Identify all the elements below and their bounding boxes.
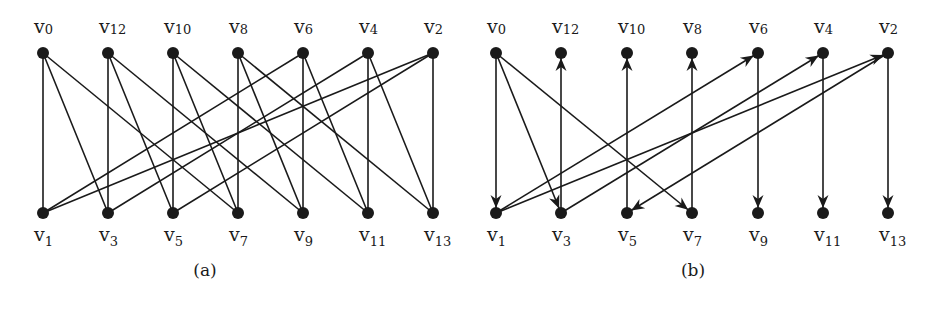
subfigure-caption: (b) [681,260,705,280]
subfigure-caption: (a) [193,260,216,280]
node-dot-icon [882,207,894,219]
node-label: v1 [33,223,53,249]
node-v1: v1 [486,207,506,249]
edge-v6-v11 [303,53,368,213]
node-v11: v11 [358,207,386,249]
arrowhead-icon [805,56,819,68]
node-v4: v4 [358,15,378,59]
node-label: v2 [878,15,898,37]
node-label: v8 [228,15,248,37]
edges [43,53,433,213]
node-label: v0 [486,15,506,37]
node-v4: v4 [813,15,833,59]
node-label: v12 [98,15,126,37]
node-v13: v13 [423,207,451,249]
edge-v12-v5 [108,53,173,213]
node-dot-icon [102,207,114,219]
subfigure-a: v0v12v10v8v6v4v2v1v3v5v7v9v11v13(a) [33,15,451,280]
node-label: v7 [228,223,248,249]
node-label: v0 [33,15,53,37]
node-label: v3 [98,223,118,249]
node-label: v8 [682,15,702,37]
node-dot-icon [490,207,502,219]
node-label: v10 [617,15,645,37]
node-v5: v5 [163,207,183,249]
node-v11: v11 [813,207,841,249]
node-dot-icon [362,47,374,59]
arrowhead-icon [675,197,689,209]
node-dot-icon [232,207,244,219]
node-label: v6 [293,15,313,37]
edge-v10-v7 [173,53,238,213]
node-dot-icon [232,47,244,59]
graph-figure: v0v12v10v8v6v4v2v1v3v5v7v9v11v13(a)v0v12… [0,0,939,311]
node-dot-icon [297,47,309,59]
node-dot-icon [427,207,439,219]
edges [491,53,894,213]
node-dot-icon [167,207,179,219]
node-dot-icon [686,207,698,219]
node-dot-icon [817,207,829,219]
node-label: v13 [423,223,451,249]
node-label: v2 [423,15,443,37]
node-dot-icon [621,47,633,59]
node-v0: v0 [33,15,53,59]
node-v9: v9 [293,207,313,249]
node-dot-icon [882,47,894,59]
node-v0: v0 [486,15,506,59]
node-v8: v8 [228,15,248,59]
node-label: v6 [748,15,768,37]
node-v2: v2 [878,15,898,59]
node-dot-icon [752,207,764,219]
node-v7: v7 [228,207,248,249]
node-dot-icon [752,47,764,59]
node-label: v13 [878,223,906,249]
node-dot-icon [555,47,567,59]
node-label: v11 [813,223,841,249]
node-v2: v2 [423,15,443,59]
node-v3: v3 [551,207,571,249]
node-dot-icon [490,47,502,59]
node-v12: v12 [98,15,126,59]
node-v5: v5 [617,207,637,249]
node-dot-icon [362,207,374,219]
node-v12: v12 [551,15,579,59]
node-dot-icon [297,207,309,219]
edge-v0-v7 [496,53,692,213]
node-dot-icon [555,207,567,219]
node-v13: v13 [878,207,906,249]
node-label: v5 [163,223,183,249]
node-v3: v3 [98,207,118,249]
node-label: v5 [617,223,637,249]
edge-v4-v13 [368,53,433,213]
node-dot-icon [37,207,49,219]
edge-v0-v3 [496,53,561,213]
node-v9: v9 [748,207,768,249]
node-label: v1 [486,223,506,249]
node-label: v10 [163,15,191,37]
node-dot-icon [621,207,633,219]
node-v10: v10 [163,15,191,59]
node-label: v12 [551,15,579,37]
node-v6: v6 [748,15,768,59]
arrowhead-icon [740,56,754,68]
node-label: v7 [682,223,702,249]
node-label: v9 [748,223,768,249]
node-v8: v8 [682,15,702,59]
node-label: v11 [358,223,386,249]
node-v6: v6 [293,15,313,59]
node-v1: v1 [33,207,53,249]
subfigure-b: v0v12v10v8v6v4v2v1v3v5v7v9v11v13(b) [486,15,906,280]
node-v10: v10 [617,15,645,59]
node-dot-icon [427,47,439,59]
arrowhead-icon [631,199,645,211]
node-label: v3 [551,223,571,249]
node-dot-icon [102,47,114,59]
edge-v0-v3 [43,53,108,213]
node-label: v4 [358,15,378,37]
node-label: v4 [813,15,833,37]
node-dot-icon [817,47,829,59]
edge-v8-v9 [238,53,303,213]
node-dot-icon [37,47,49,59]
node-label: v9 [293,223,313,249]
